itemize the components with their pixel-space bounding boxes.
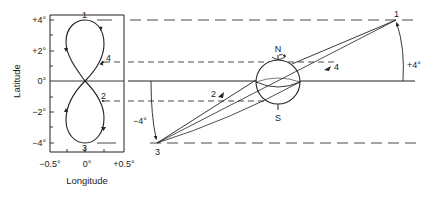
plus4-angle-arc bbox=[397, 24, 403, 81]
ground-track-plot: +4° +2° 0° −2° −4° −0.5° 0° +0.5° Latitu… bbox=[11, 10, 135, 186]
y-tick-label: +4° bbox=[32, 15, 46, 25]
minus4-angle-label: −4° bbox=[133, 116, 147, 126]
point-label-2: 2 bbox=[101, 91, 106, 101]
figure-eight-track bbox=[66, 20, 104, 143]
y-axis-title: Latitude bbox=[11, 64, 22, 98]
x-axis-title: Longitude bbox=[66, 175, 108, 186]
x-tick-label: 0° bbox=[83, 159, 92, 169]
x-tick-label: −0.5° bbox=[39, 159, 61, 169]
point-marker-4 bbox=[102, 61, 104, 63]
y-tick-label: −2° bbox=[32, 107, 46, 117]
orbit-point-label-3: 3 bbox=[155, 147, 160, 157]
orbit-line-upper-to-1 bbox=[292, 20, 396, 64]
earth-globe bbox=[256, 60, 300, 104]
point-label-4: 4 bbox=[106, 53, 111, 63]
x-tick-label: +0.5° bbox=[113, 159, 135, 169]
y-tick-label: +2° bbox=[32, 46, 46, 56]
south-label: S bbox=[275, 113, 281, 123]
point-label-3: 3 bbox=[82, 143, 87, 153]
y-tick-label: −4° bbox=[32, 138, 46, 148]
orbit-arrow-2-icon bbox=[218, 92, 224, 98]
point-label-1: 1 bbox=[82, 10, 87, 20]
orbit-geometry: N S 2 4 1 3 +4° −4° bbox=[128, 9, 421, 157]
north-label: N bbox=[275, 44, 282, 54]
orbit-point-label-1: 1 bbox=[394, 9, 399, 19]
orbit-line-3-to-1-upper bbox=[157, 80, 256, 143]
plus4-angle-label: +4° bbox=[407, 60, 421, 70]
y-axis-ticks bbox=[50, 20, 54, 143]
y-tick-label: 0° bbox=[37, 76, 46, 86]
orbit-point-label-4: 4 bbox=[334, 62, 339, 72]
orbit-inclination-diagram: +4° +2° 0° −2° −4° −0.5° 0° +0.5° Latitu… bbox=[0, 0, 438, 197]
orbit-arrow-4-icon bbox=[324, 66, 331, 71]
point-marker-2 bbox=[102, 100, 104, 102]
minus4-angle-arc bbox=[151, 81, 156, 138]
orbit-point-label-2: 2 bbox=[211, 89, 216, 99]
